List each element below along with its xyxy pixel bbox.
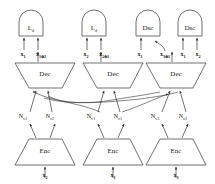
- top-module-shapes: [19, 10, 202, 36]
- encoder-input-label-1: x2: [42, 172, 47, 180]
- latent-node-nc1: Nc1: [114, 113, 122, 121]
- latent-node-nv2: Nv2: [19, 113, 28, 121]
- curved-dsc-input: [155, 41, 165, 51]
- encoder-label-2: Enc: [108, 148, 119, 155]
- discriminator-box-1: [136, 10, 160, 36]
- input-label-x1-a: x1: [20, 51, 25, 59]
- input-label-x2-a: x2: [83, 51, 88, 59]
- latent-node-nv3: Nv3: [151, 113, 160, 121]
- encoder-label-1: Enc: [40, 148, 51, 155]
- top-input-arrows: [24, 38, 197, 50]
- discriminator-box-2: [178, 10, 202, 36]
- discriminator-label-2: Dsc: [185, 25, 196, 32]
- discriminator-label-1: Dsc: [143, 25, 154, 32]
- latent-node-nc3: Nc3: [179, 113, 187, 121]
- encoder-to-latent-arrows: [30, 124, 188, 138]
- input-label-x1x2: x1⊕2: [36, 51, 46, 59]
- architecture-diagram: Ld Ld Dsc Dsc x1 x1⊕2 x2 x2⊕1 x1 x3⊕1 x1…: [0, 0, 215, 184]
- loss-label-1: Ld: [28, 25, 34, 34]
- loss-label-2: Ld: [91, 25, 97, 34]
- input-label-x3x1: x3⊕1: [160, 51, 170, 59]
- input-label-x1-b: x1: [137, 51, 142, 59]
- encoder-input-label-2: x1: [110, 172, 115, 180]
- latent-node-nv1: Nv1: [87, 113, 96, 121]
- latent-node-nc2: Nc2: [46, 113, 54, 121]
- encoder-label-3: Enc: [171, 148, 182, 155]
- input-label-x2-b: x2: [195, 51, 200, 59]
- cross-connection-curves: [33, 91, 178, 112]
- decoder-label-2: Dec: [107, 71, 118, 78]
- encoder-input-label-3: x3: [173, 172, 178, 180]
- decoder-label-1: Dec: [39, 71, 50, 78]
- input-label-x2x1: x2⊕1: [99, 51, 109, 59]
- input-label-x1-c: x1: [180, 51, 185, 59]
- decoder-label-3: Dec: [170, 71, 181, 78]
